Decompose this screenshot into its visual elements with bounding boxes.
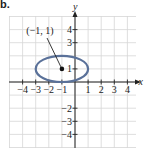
x-tick-label: −1 [57, 84, 68, 95]
center-point [60, 67, 65, 72]
y-tick-label: 1 [67, 63, 72, 74]
point-label: (−1, 1) [26, 25, 53, 37]
x-tick-label: 2 [99, 84, 104, 95]
x-tick-label: −2 [43, 84, 54, 95]
x-tick-label: −3 [30, 84, 41, 95]
x-tick-label: 1 [86, 84, 91, 95]
y-tick-label: 4 [67, 24, 72, 35]
y-tick-label: −2 [61, 103, 72, 114]
y-tick-label: −3 [61, 116, 72, 127]
y-tick-label: 3 [67, 37, 72, 48]
y-axis-label: y [72, 1, 78, 12]
x-axis-label: x [138, 76, 144, 87]
y-tick-label: −4 [61, 129, 72, 140]
x-tick-label: −4 [17, 84, 28, 95]
x-tick-label: 4 [125, 84, 130, 95]
coordinate-plane: xy−4−3−2−11234−4−3−2134(−1, 1) [0, 0, 145, 148]
x-tick-label: 3 [112, 84, 117, 95]
